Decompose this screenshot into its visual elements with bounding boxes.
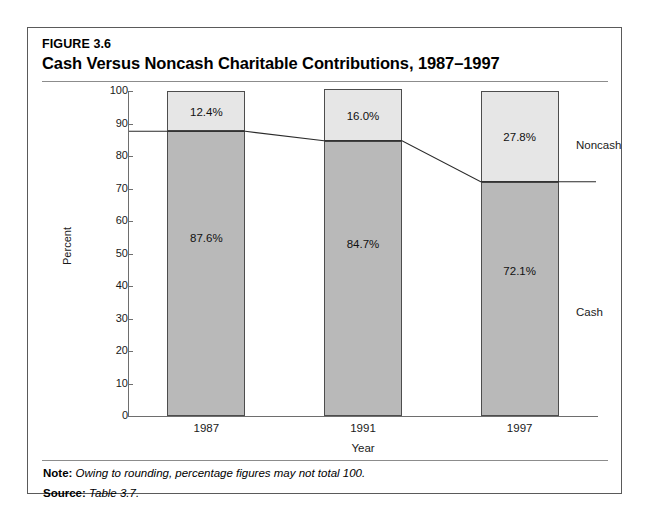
- note-text: Owing to rounding, percentage figures ma…: [76, 467, 366, 479]
- chart-plot-area: 0102030405060708090100 Percent 12.4%87.6…: [28, 28, 623, 495]
- y-axis-tick: [128, 416, 133, 417]
- y-axis-tick-label: 50: [102, 248, 128, 259]
- x-axis-line: [128, 416, 598, 417]
- y-axis-tick-label: 80: [102, 150, 128, 161]
- y-axis-tick-label-wrap: 50: [90, 248, 128, 259]
- series-label-noncash: Noncash: [576, 139, 621, 151]
- y-axis-tick-label-wrap: 40: [90, 280, 128, 291]
- y-axis-tick-label-wrap: 100: [90, 85, 128, 96]
- y-axis-title: Percent: [61, 206, 73, 286]
- y-axis-tick-label: 40: [102, 280, 128, 291]
- y-axis-tick-label: 30: [102, 313, 128, 324]
- source-line: Source: Table 3.7.: [43, 486, 139, 500]
- x-axis-title: Year: [128, 442, 598, 454]
- note-label: Note:: [43, 467, 72, 479]
- bar-stack[interactable]: 27.8%72.1%: [481, 91, 559, 416]
- y-axis-tick-label-wrap: 80: [90, 150, 128, 161]
- bar-segment-noncash[interactable]: 12.4%: [167, 91, 245, 131]
- bar-stack[interactable]: 16.0%84.7%: [324, 89, 402, 416]
- bar-value-label-noncash: 16.0%: [325, 110, 401, 122]
- source-text: Table 3.7.: [89, 487, 139, 499]
- bar-value-label-cash: 84.7%: [325, 238, 401, 250]
- figure-container: FIGURE 3.6 Cash Versus Noncash Charitabl…: [27, 27, 622, 494]
- x-axis-tick-label: 1997: [465, 422, 575, 434]
- y-axis-tick-label: 20: [102, 345, 128, 356]
- y-axis-tick: [128, 286, 133, 287]
- note-line: Note: Owing to rounding, percentage figu…: [43, 466, 365, 480]
- bar-value-label-cash: 87.6%: [168, 232, 244, 244]
- y-axis-tick-label-wrap: 10: [90, 378, 128, 389]
- y-axis-tick: [128, 254, 133, 255]
- y-axis-tick: [128, 156, 133, 157]
- y-axis-tick: [128, 124, 133, 125]
- bar-segment-cash[interactable]: 87.6%: [167, 131, 245, 416]
- y-axis-tick: [128, 221, 133, 222]
- y-axis-tick-label: 70: [102, 183, 128, 194]
- y-axis-tick-label: 90: [102, 118, 128, 129]
- y-axis-tick: [128, 319, 133, 320]
- y-axis-tick-label-wrap: 20: [90, 345, 128, 356]
- y-axis-tick: [128, 351, 133, 352]
- y-axis-tick-label: 60: [102, 215, 128, 226]
- y-axis-tick-label: 100: [102, 85, 128, 96]
- y-axis-tick: [128, 91, 133, 92]
- bar-segment-cash[interactable]: 72.1%: [481, 182, 559, 416]
- bar-value-label-noncash: 27.8%: [482, 131, 558, 143]
- y-axis-tick-label: 0: [102, 410, 128, 421]
- bar-segment-noncash[interactable]: 16.0%: [324, 89, 402, 141]
- y-axis-tick-label: 10: [102, 378, 128, 389]
- bar-segment-cash[interactable]: 84.7%: [324, 141, 402, 416]
- bar-segment-noncash[interactable]: 27.8%: [481, 91, 559, 181]
- x-axis-tick-label: 1987: [151, 422, 261, 434]
- x-axis-tick-label: 1991: [308, 422, 418, 434]
- y-axis-tick-label-wrap: 30: [90, 313, 128, 324]
- y-axis-tick-label-wrap: 60: [90, 215, 128, 226]
- y-axis-tick: [128, 189, 133, 190]
- source-label: Source:: [43, 487, 86, 499]
- y-axis-tick-label-wrap: 90: [90, 118, 128, 129]
- y-axis-tick: [128, 384, 133, 385]
- footer-divider: [42, 460, 608, 461]
- y-axis-tick-label-wrap: 70: [90, 183, 128, 194]
- series-label-cash: Cash: [576, 306, 603, 318]
- y-axis-tick-label-wrap: 0: [90, 410, 128, 421]
- bar-value-label-cash: 72.1%: [482, 265, 558, 277]
- bar-stack[interactable]: 12.4%87.6%: [167, 91, 245, 416]
- bar-value-label-noncash: 12.4%: [168, 106, 244, 118]
